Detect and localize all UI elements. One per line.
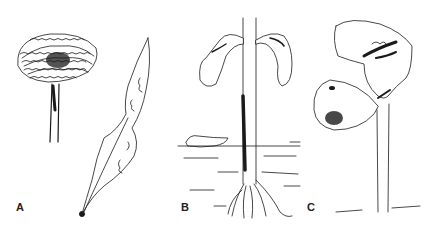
panel-label-b: B: [181, 201, 189, 213]
figure-drawing: [0, 0, 434, 228]
panel-a-mushroom: [18, 34, 97, 142]
panel-c-seedling: [290, 20, 420, 212]
panel-b-seedling: [178, 18, 300, 218]
panel-label-a: A: [16, 201, 24, 213]
panel-label-c: C: [307, 201, 315, 213]
botanical-figure: A B C: [0, 0, 434, 228]
